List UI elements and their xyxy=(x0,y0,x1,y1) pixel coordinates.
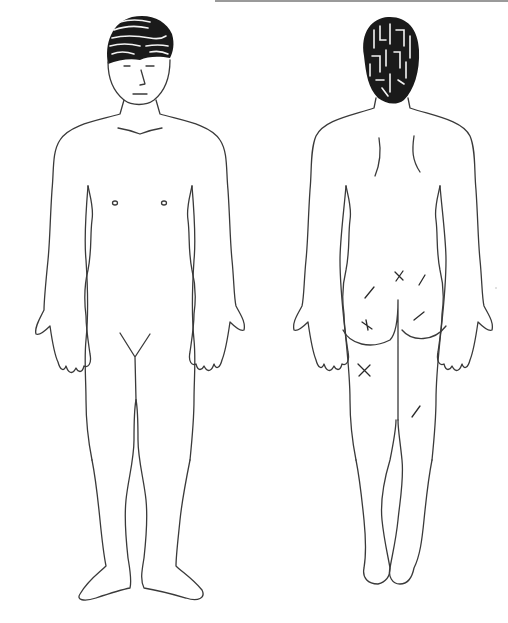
mark-slash-lower-right-buttock xyxy=(414,312,424,320)
mark-x-posterior-thigh xyxy=(358,364,370,376)
mark-x-lower-left-buttock xyxy=(362,320,372,330)
mark-slash-upper-left-buttock xyxy=(365,287,374,298)
back-legs-right xyxy=(389,420,432,584)
back-shoulder-blade-right xyxy=(413,136,420,172)
front-nose xyxy=(140,70,145,85)
scan-speck xyxy=(495,287,497,289)
back-legs-left xyxy=(356,420,396,584)
back-marks xyxy=(358,271,425,417)
back-figure xyxy=(294,17,493,584)
back-body-left xyxy=(294,98,376,370)
front-nipple-right xyxy=(162,201,167,205)
mark-x-lower-back xyxy=(395,271,403,281)
back-shoulder-blade-left xyxy=(375,138,380,176)
front-collarbone xyxy=(118,128,162,134)
front-head-outline xyxy=(108,60,170,105)
back-torso-right xyxy=(432,186,446,460)
front-figure xyxy=(36,16,245,600)
mark-slash-right-flank xyxy=(419,275,425,285)
body-diagram xyxy=(0,0,508,623)
back-torso-left xyxy=(340,186,356,460)
front-nipple-left xyxy=(113,201,118,205)
front-groin xyxy=(120,333,150,400)
back-buttocks xyxy=(343,300,446,420)
front-body-right xyxy=(156,100,244,370)
mark-slash-posterior-right-thigh xyxy=(412,406,420,417)
front-hair xyxy=(107,16,173,64)
front-body-left xyxy=(36,100,124,372)
back-hair xyxy=(363,17,419,104)
back-body-right xyxy=(408,98,492,370)
